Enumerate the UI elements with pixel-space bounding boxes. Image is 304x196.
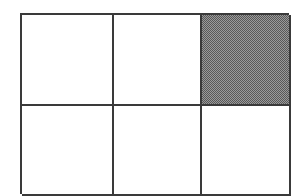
grid-cell-r1c2[interactable] xyxy=(114,15,202,106)
grid-cell-r1c3-shaded[interactable] xyxy=(202,15,291,106)
grid-cell-r2c3[interactable] xyxy=(202,106,291,196)
grid-cell-r2c2[interactable] xyxy=(114,106,202,196)
grid-cell-r1c1[interactable] xyxy=(22,15,114,106)
grid-cell-r2c1[interactable] xyxy=(22,106,114,196)
figure-canvas xyxy=(0,0,304,196)
rectangle-grid xyxy=(20,13,289,194)
